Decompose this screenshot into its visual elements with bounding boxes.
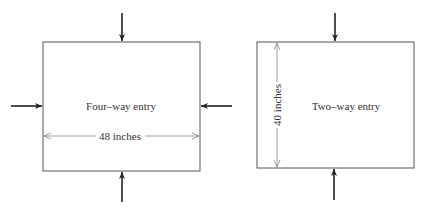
- pallet-entry-diagram: Four–way entry 48 inches Two–way entry 4…: [0, 0, 424, 209]
- two-way-label: Two–way entry: [312, 100, 381, 112]
- four-way-label: Four–way entry: [86, 100, 156, 112]
- width-dimension-label: 48 inches: [99, 130, 141, 142]
- two-way-pallet: Two–way entry 40 inches: [257, 13, 414, 200]
- depth-dimension-label: 40 inches: [271, 84, 283, 126]
- four-way-pallet: Four–way entry 48 inches: [11, 13, 232, 202]
